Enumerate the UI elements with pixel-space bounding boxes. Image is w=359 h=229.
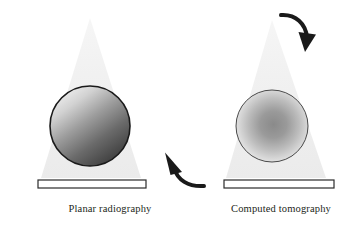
sphere-radial-shading-right (236, 90, 308, 162)
figure-root: Planar radiography Computed tomography (0, 0, 359, 229)
caption-computed-tomography: Computed tomography (231, 203, 332, 214)
sphere-linear-shading-left (50, 86, 130, 166)
detector-bar-right (224, 180, 334, 188)
figure-canvas: Planar radiography Computed tomography (0, 0, 359, 229)
caption-planar-radiography: Planar radiography (69, 203, 152, 214)
detector-bar-left (38, 180, 146, 188)
